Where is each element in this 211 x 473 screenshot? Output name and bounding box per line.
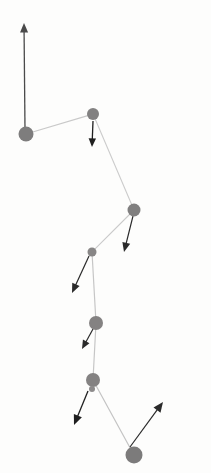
graph-node [88,248,97,257]
graph-node [86,373,100,387]
graph-node [87,108,99,120]
graph-node [19,127,34,142]
figure-canvas [0,0,211,473]
arrow-shaft [24,31,25,130]
graph-node [128,204,141,217]
arrow-shaft [92,121,93,140]
graph-node [89,316,103,330]
graph-node [126,447,143,464]
graph-node [89,386,95,392]
graph-plot [0,0,211,473]
